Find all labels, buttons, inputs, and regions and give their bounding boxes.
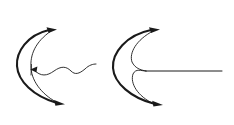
left-sinusoidal-wave <box>34 64 96 75</box>
right-inner-lower-arc <box>132 70 154 104</box>
figure-canvas <box>0 0 234 125</box>
right-inner-upper-arc <box>131 31 153 71</box>
left-outer-crescent-arc <box>17 30 57 103</box>
left-top-arrowhead-icon <box>47 27 58 33</box>
right-panel <box>113 27 222 106</box>
left-wave-origin-tick <box>31 65 32 76</box>
right-outer-crescent-arc <box>113 30 155 104</box>
left-panel <box>17 27 96 106</box>
wavefront-diagram-svg <box>0 0 234 125</box>
left-bottom-arrowhead-icon <box>54 100 65 106</box>
